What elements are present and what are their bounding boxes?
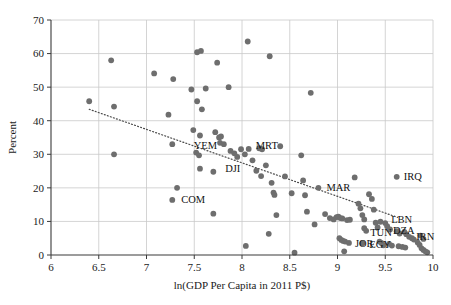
data-point xyxy=(402,245,408,251)
data-point xyxy=(347,217,353,223)
data-point xyxy=(322,211,328,217)
data-point xyxy=(273,212,279,218)
data-point xyxy=(361,217,367,223)
data-point xyxy=(363,228,369,234)
data-point xyxy=(298,152,304,158)
data-point xyxy=(238,146,244,152)
point-label-irq: IRQ xyxy=(404,171,423,182)
data-point xyxy=(369,196,375,202)
data-point xyxy=(234,154,240,160)
point-label-irn: IRN xyxy=(416,231,435,242)
data-point xyxy=(289,190,295,196)
data-point xyxy=(277,143,283,149)
data-point xyxy=(226,84,232,90)
data-point xyxy=(269,180,275,186)
y-tick-label: 0 xyxy=(39,249,45,261)
x-tick-label: 6.5 xyxy=(92,261,106,273)
x-tick-label: 8.5 xyxy=(283,261,297,273)
x-tick-label: 7.5 xyxy=(187,261,201,273)
data-point xyxy=(203,86,209,92)
x-tick-label: 8 xyxy=(239,261,245,273)
data-point xyxy=(194,98,200,104)
point-label-com: COM xyxy=(181,194,206,205)
data-point xyxy=(166,112,172,118)
y-tick-label: 10 xyxy=(33,215,45,227)
data-point xyxy=(190,127,196,133)
y-tick-label: 30 xyxy=(33,148,45,160)
y-tick-label: 20 xyxy=(33,182,45,194)
data-point xyxy=(302,192,308,198)
x-axis-title: ln(GDP Per Capita in 2011 P$) xyxy=(174,279,311,292)
point-label-dji: DJI xyxy=(225,163,241,174)
data-point xyxy=(308,90,314,96)
trendline xyxy=(89,109,397,217)
data-point xyxy=(312,222,318,228)
data-point xyxy=(282,174,288,180)
data-point xyxy=(246,146,252,152)
data-point xyxy=(199,106,205,112)
data-point xyxy=(250,157,256,163)
data-point xyxy=(266,231,272,237)
x-tick-label: 6 xyxy=(48,261,54,273)
data-point xyxy=(86,98,92,104)
y-tick-label: 40 xyxy=(33,115,45,127)
data-point xyxy=(221,141,227,147)
data-point xyxy=(304,209,310,215)
data-point xyxy=(210,211,216,217)
data-point xyxy=(197,133,203,139)
data-point xyxy=(272,192,278,198)
data-point xyxy=(352,175,358,181)
data-point xyxy=(212,129,218,135)
data-point xyxy=(424,249,430,255)
data-point xyxy=(188,87,194,93)
y-tick-label: 50 xyxy=(33,81,45,93)
y-axis-title: Percent xyxy=(6,121,18,154)
data-point xyxy=(341,248,347,254)
data-point xyxy=(253,168,259,174)
data-point xyxy=(263,162,269,168)
point-label-yem: YEM xyxy=(194,140,218,151)
y-tick-label: 60 xyxy=(33,47,45,59)
point-label-mar: MAR xyxy=(326,182,350,193)
y-tick-label: 70 xyxy=(33,14,45,26)
data-point xyxy=(258,173,264,179)
data-point xyxy=(151,70,157,76)
data-point xyxy=(218,134,224,140)
data-point xyxy=(346,240,352,246)
chart-canvas: COMYEMMRTDJIMARJORTUNEGYLBNDZAIRQIRN0102… xyxy=(0,0,451,305)
point-label-dza: DZA xyxy=(393,225,415,236)
data-point xyxy=(214,60,220,66)
data-point xyxy=(242,151,248,157)
data-point xyxy=(210,169,216,175)
x-tick-label: 7 xyxy=(144,261,150,273)
data-point xyxy=(243,243,249,249)
data-point xyxy=(300,178,306,184)
data-point xyxy=(358,205,364,211)
point-label-tun: TUN xyxy=(370,227,392,238)
data-point xyxy=(267,53,273,59)
data-point xyxy=(169,141,175,147)
data-point xyxy=(245,39,251,45)
data-point xyxy=(316,185,322,191)
scatter-chart: COMYEMMRTDJIMARJORTUNEGYLBNDZAIRQIRN0102… xyxy=(0,0,451,305)
point-label-lbn: LBN xyxy=(391,214,412,225)
data-point xyxy=(111,151,117,157)
data-point xyxy=(371,207,377,213)
data-point xyxy=(174,185,180,191)
point-label-egy: EGY xyxy=(369,239,391,250)
data-point xyxy=(197,166,203,172)
x-tick-label: 9.5 xyxy=(378,261,392,273)
data-point xyxy=(196,152,202,158)
point-label-mrt: MRT xyxy=(256,140,279,151)
data-point xyxy=(198,48,204,54)
data-point xyxy=(108,57,114,63)
x-tick-label: 10 xyxy=(428,261,440,273)
data-point xyxy=(111,104,117,110)
x-tick-label: 9 xyxy=(335,261,341,273)
data-point xyxy=(170,76,176,82)
data-point xyxy=(169,197,175,203)
data-point xyxy=(394,174,400,180)
